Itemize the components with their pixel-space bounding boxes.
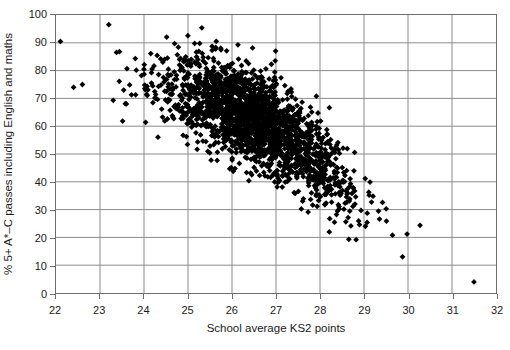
x-tick-label: 30 bbox=[402, 305, 414, 316]
x-tick-mark bbox=[99, 294, 100, 299]
y-tick-label: 0 bbox=[41, 289, 47, 300]
x-tick-label: 27 bbox=[270, 305, 282, 316]
x-axis-title-label: School average KS2 points bbox=[207, 322, 346, 334]
y-tick-label: 20 bbox=[35, 233, 47, 244]
y-tick-label: 60 bbox=[35, 121, 47, 132]
plot-area bbox=[55, 14, 497, 294]
x-tick-label: 23 bbox=[93, 305, 105, 316]
y-axis-title-label: % 5+ A*–C passes including English and m… bbox=[2, 33, 14, 275]
x-tick-mark bbox=[409, 294, 410, 299]
x-tick-mark bbox=[188, 294, 189, 299]
x-tick-mark bbox=[143, 294, 144, 299]
y-tick-label: 50 bbox=[35, 149, 47, 160]
scatter-chart: % 5+ A*–C passes including English and m… bbox=[0, 0, 510, 350]
x-tick-label: 22 bbox=[49, 305, 61, 316]
x-tick-label: 32 bbox=[491, 305, 503, 316]
x-tick-mark bbox=[276, 294, 277, 299]
y-tick-label: 70 bbox=[35, 93, 47, 104]
x-tick-label: 31 bbox=[447, 305, 459, 316]
x-tick-label: 25 bbox=[181, 305, 193, 316]
x-tick-mark bbox=[55, 294, 56, 299]
y-axis-title: % 5+ A*–C passes including English and m… bbox=[0, 14, 16, 294]
x-tick-mark bbox=[453, 294, 454, 299]
x-tick-label: 24 bbox=[137, 305, 149, 316]
y-tick-label: 10 bbox=[35, 261, 47, 272]
x-tick-label: 26 bbox=[226, 305, 238, 316]
y-tick-label: 40 bbox=[35, 177, 47, 188]
y-tick-label: 80 bbox=[35, 65, 47, 76]
y-tick-label: 90 bbox=[35, 37, 47, 48]
x-tick-label: 28 bbox=[314, 305, 326, 316]
x-tick-mark bbox=[232, 294, 233, 299]
x-tick-mark bbox=[364, 294, 365, 299]
x-tick-mark bbox=[320, 294, 321, 299]
y-tick-label: 100 bbox=[29, 9, 47, 20]
x-tick-label: 29 bbox=[358, 305, 370, 316]
x-tick-mark bbox=[497, 294, 498, 299]
x-axis-title: School average KS2 points bbox=[55, 322, 497, 334]
data-points bbox=[56, 15, 496, 293]
y-tick-label: 30 bbox=[35, 205, 47, 216]
